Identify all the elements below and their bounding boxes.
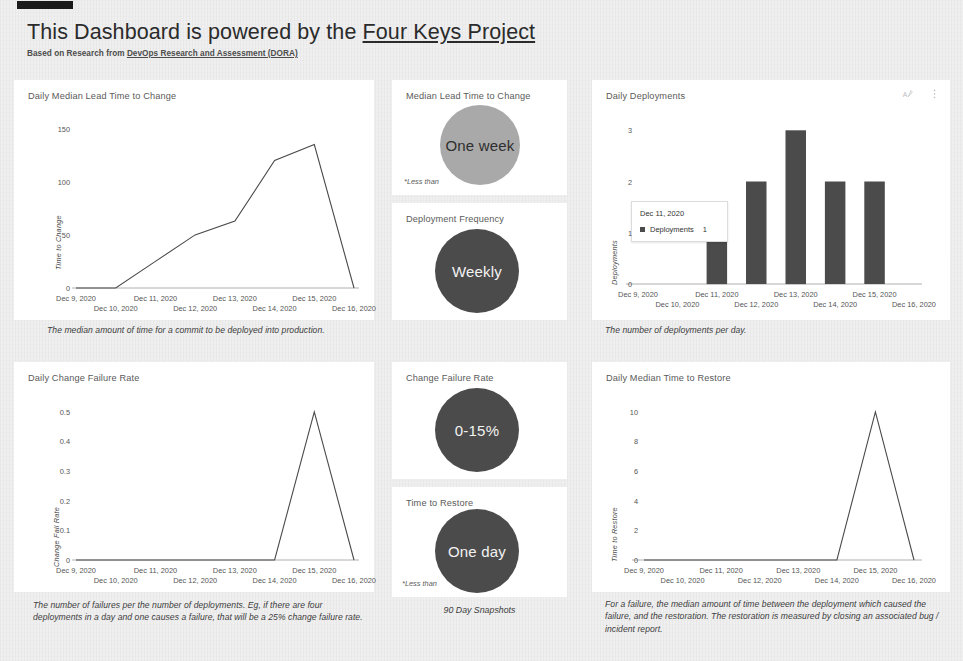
time-to-restore-x-tick: Dec 10, 2020 — [650, 576, 716, 585]
change-failure-y-tick: 0.3 — [36, 467, 70, 476]
subtitle-text: Based on Research from — [27, 49, 127, 58]
deployment-frequency-value-circle: Weekly — [435, 229, 519, 313]
deployments-y-tick: 0 — [598, 280, 632, 289]
daily-deployments-caption: The number of deployments per day. — [605, 324, 935, 336]
time-to-restore-chart-card: Daily Median Time to Restore Time to Res… — [592, 362, 950, 592]
change-failure-y-tick: 0.2 — [36, 497, 70, 506]
time-to-restore-metric-card: Time to Restore One day *Less than 90 Da… — [392, 487, 567, 597]
median-lead-time-value: One week — [445, 137, 514, 154]
change-failure-rate-metric-card: Change Failure Rate 0-15% — [392, 362, 567, 479]
lead-time-x-tick: Dec 14, 2020 — [242, 304, 308, 313]
page-subtitle: Based on Research from DevOps Research a… — [27, 49, 535, 58]
tooltip-series-name: Deployments — [650, 225, 694, 234]
deployments-y-tick: 1 — [598, 229, 632, 238]
dora-research-link[interactable]: DevOps Research and Assessment (DORA) — [127, 49, 298, 58]
lead-time-x-tick: Dec 11, 2020 — [122, 294, 188, 303]
change-failure-y-tick: 0.1 — [36, 526, 70, 535]
page-title: This Dashboard is powered by the Four Ke… — [27, 20, 535, 44]
change-failure-y-tick: 0 — [36, 556, 70, 565]
lead-time-x-tick: Dec 15, 2020 — [281, 294, 347, 303]
lead-time-x-tick: Dec 10, 2020 — [83, 304, 149, 313]
snapshot-period-label: 90 Day Snapshots — [392, 605, 567, 615]
deployments-x-tick: Dec 15, 2020 — [842, 290, 908, 299]
time-to-restore-y-tick: 0 — [604, 556, 638, 565]
deployment-bar[interactable] — [746, 182, 767, 285]
lead-time-x-tick: Dec 12, 2020 — [162, 304, 228, 313]
deployment-frequency-metric-card: Deployment Frequency Weekly — [392, 203, 567, 320]
time-to-restore-x-tick: Dec 11, 2020 — [688, 566, 754, 575]
change-failure-x-tick: Dec 10, 2020 — [83, 576, 149, 585]
daily-deployments-chart-card: Daily Deployments A Deployments Dec 11, … — [592, 80, 950, 320]
four-keys-project-link[interactable]: Four Keys Project — [363, 20, 536, 44]
lead-time-x-tick: Dec 9, 2020 — [43, 294, 109, 303]
deployments-x-tick: Dec 10, 2020 — [644, 300, 710, 309]
change-failure-x-tick: Dec 11, 2020 — [122, 566, 188, 575]
change-failure-x-tick: Dec 16, 2020 — [321, 576, 387, 585]
median-lead-time-title: Median Lead Time to Change — [406, 91, 530, 101]
time-to-restore-x-tick: Dec 13, 2020 — [765, 566, 831, 575]
deployments-y-tick: 3 — [598, 126, 632, 135]
deployment-bar[interactable] — [825, 182, 846, 285]
time-to-restore-title: Time to Restore — [406, 498, 473, 508]
dashboard-page: This Dashboard is powered by the Four Ke… — [0, 0, 963, 661]
lead-time-x-tick: Dec 13, 2020 — [202, 294, 268, 303]
lead-time-y-tick: 100 — [36, 178, 70, 187]
lead-time-y-tick: 0 — [36, 284, 70, 293]
deployment-bar[interactable] — [864, 182, 885, 285]
dashboard-header: This Dashboard is powered by the Four Ke… — [27, 20, 535, 58]
deployment-bar[interactable] — [786, 130, 807, 284]
time-to-restore-y-tick: 4 — [604, 497, 638, 506]
lead-time-chart-card: Daily Median Lead Time to Change Time to… — [14, 80, 374, 320]
change-failure-x-tick: Dec 12, 2020 — [162, 576, 228, 585]
change-failure-rate-chart-card: Daily Change Failure Rate Change Fail Ra… — [14, 362, 374, 592]
time-to-restore-y-tick: 8 — [604, 437, 638, 446]
lead-time-y-tick: 50 — [36, 231, 70, 240]
median-lead-time-value-circle: One week — [440, 105, 520, 185]
median-lead-time-metric-card: Median Lead Time to Change One week *Les… — [392, 80, 567, 195]
change-failure-rate-value-circle: 0-15% — [435, 388, 519, 472]
deployments-x-tick: Dec 16, 2020 — [881, 300, 947, 309]
page-title-text: This Dashboard is powered by the — [27, 20, 363, 44]
time-to-restore-x-tick: Dec 12, 2020 — [727, 576, 793, 585]
time-to-restore-y-tick: 2 — [604, 526, 638, 535]
change-failure-x-tick: Dec 13, 2020 — [202, 566, 268, 575]
deployments-x-tick: Dec 12, 2020 — [723, 300, 789, 309]
lead-time-caption: The median amount of time for a commit t… — [47, 324, 367, 336]
deployments-y-tick: 2 — [598, 178, 632, 187]
change-failure-x-tick: Dec 14, 2020 — [242, 576, 308, 585]
time-to-restore-x-tick: Dec 15, 2020 — [842, 566, 908, 575]
time-to-restore-y-tick: 6 — [604, 467, 638, 476]
change-failure-y-tick: 0.4 — [36, 437, 70, 446]
time-to-restore-line-chart[interactable] — [592, 362, 950, 592]
time-to-restore-x-tick: Dec 14, 2020 — [804, 576, 870, 585]
change-failure-x-tick: Dec 9, 2020 — [43, 566, 109, 575]
change-failure-rate-caption: The number of failures per the number of… — [33, 599, 373, 624]
time-to-restore-x-tick: Dec 9, 2020 — [611, 566, 677, 575]
time-to-restore-y-tick: 10 — [604, 408, 638, 417]
time-to-restore-footnote: *Less than — [402, 579, 437, 588]
change-failure-x-tick: Dec 15, 2020 — [281, 566, 347, 575]
deployments-x-tick: Dec 14, 2020 — [802, 300, 868, 309]
tooltip-date: Dec 11, 2020 — [640, 209, 718, 218]
lead-time-y-tick: 150 — [36, 125, 70, 134]
tooltip-series-row: Deployments 1 — [640, 225, 718, 234]
redaction-bar — [17, 1, 73, 9]
deployment-frequency-title: Deployment Frequency — [406, 214, 504, 224]
time-to-restore-value: One day — [448, 543, 506, 560]
deployments-x-tick: Dec 11, 2020 — [684, 290, 750, 299]
deployments-x-tick: Dec 9, 2020 — [605, 290, 671, 299]
change-failure-rate-title: Change Failure Rate — [406, 373, 494, 383]
time-to-restore-caption: For a failure, the median amount of time… — [605, 598, 945, 635]
change-failure-rate-value: 0-15% — [455, 422, 499, 439]
lead-time-x-tick: Dec 16, 2020 — [321, 304, 387, 313]
deployments-x-tick: Dec 13, 2020 — [763, 290, 829, 299]
time-to-restore-value-circle: One day — [435, 509, 519, 593]
time-to-restore-x-tick: Dec 16, 2020 — [881, 576, 947, 585]
deployment-frequency-value: Weekly — [452, 263, 502, 280]
tooltip-color-swatch — [640, 227, 645, 232]
tooltip-series-value: 1 — [703, 225, 707, 234]
deployments-tooltip: Dec 11, 2020 Deployments 1 — [631, 201, 728, 242]
daily-deployments-bar-chart[interactable] — [592, 80, 950, 320]
change-failure-y-tick: 0.5 — [36, 408, 70, 417]
median-lead-time-footnote: *Less than — [404, 177, 439, 186]
